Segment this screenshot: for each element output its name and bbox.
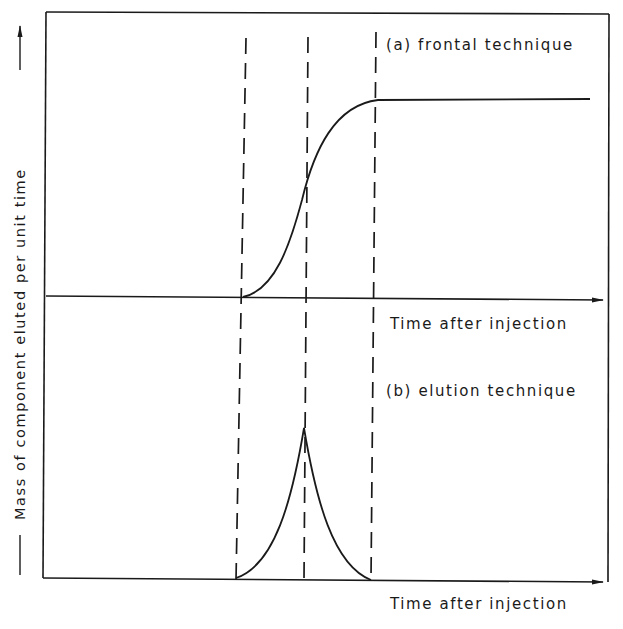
panel-b-x-axis-label: Time after injection (389, 595, 568, 613)
panel-b-title: (b) elution technique (386, 382, 577, 400)
frontal-curve (243, 99, 590, 297)
frame-top (46, 12, 609, 14)
elution-peak (236, 428, 371, 580)
x-axis-top-panel (46, 296, 603, 300)
guide-line-midpoint (304, 37, 308, 580)
x-axis-bottom-panel (43, 578, 603, 582)
panel-a-x-axis-label: Time after injection (389, 315, 568, 333)
y-axis-label: Mass of component eluted per unit time (12, 168, 28, 520)
guide-lines (236, 32, 376, 580)
panel-a-title: (a) frontal technique (386, 36, 574, 54)
guide-line-end (371, 32, 376, 580)
y-axis-label-group: Mass of component eluted per unit time (12, 26, 28, 575)
curves (236, 99, 590, 580)
frame-left (43, 12, 46, 578)
guide-line-start (236, 38, 246, 580)
chromatography-diagram: (a) frontal technique Time after injecti… (0, 0, 623, 629)
axes (43, 296, 603, 582)
frame-right (608, 14, 609, 582)
